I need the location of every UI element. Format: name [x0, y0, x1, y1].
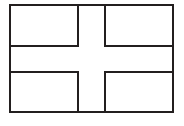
bottom-left-panel — [10, 72, 78, 112]
figure-canvas: Cross flag line drawing Outline drawing … — [0, 0, 184, 126]
top-left-panel — [10, 5, 78, 46]
bottom-right-panel — [105, 72, 173, 112]
flag-group — [10, 5, 173, 112]
top-right-panel — [105, 5, 173, 46]
cross-flag-drawing — [0, 0, 184, 126]
